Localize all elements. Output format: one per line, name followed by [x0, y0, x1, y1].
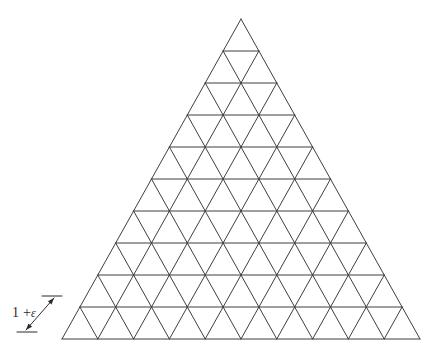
lattice-left-diagonal: [169, 179, 187, 211]
lattice-left-diagonal: [259, 275, 277, 307]
lattice-left-diagonal: [277, 243, 295, 275]
lattice-right-diagonal: [223, 243, 241, 275]
lattice-right-diagonal: [402, 307, 420, 339]
lattice-left-diagonal: [223, 211, 241, 243]
lattice-left-diagonal: [241, 51, 259, 83]
lattice-left-diagonal: [223, 275, 241, 307]
lattice-left-diagonal: [295, 275, 313, 307]
figure-root: 1 +ε: [0, 0, 438, 360]
lattice-right-diagonal: [277, 147, 295, 179]
lattice-right-diagonal: [223, 115, 241, 147]
lattice-right-diagonal: [116, 243, 134, 275]
lattice-right-diagonal: [259, 51, 277, 83]
lattice-right-diagonal: [277, 211, 295, 243]
lattice-right-diagonal: [205, 147, 223, 179]
lattice-right-diagonal: [366, 243, 384, 275]
lattice-left-diagonal: [277, 179, 295, 211]
lattice-right-diagonal: [241, 83, 259, 115]
lattice-left-diagonal: [313, 243, 331, 275]
lattice-left-diagonal: [366, 275, 384, 307]
lattice-right-diagonal: [331, 179, 349, 211]
lattice-left-diagonal: [348, 307, 366, 339]
lattice-left-diagonal: [259, 147, 277, 179]
lattice-left-diagonal: [348, 243, 366, 275]
lattice-left-diagonal: [241, 179, 259, 211]
lattice-right-diagonal: [277, 275, 295, 307]
lattice-right-diagonal: [134, 275, 152, 307]
lattice-left-diagonal: [205, 307, 223, 339]
triangular-lattice: [0, 0, 438, 360]
lattice-right-diagonal: [223, 51, 241, 83]
lattice-line-group: [62, 19, 420, 339]
lattice-right-diagonal: [223, 179, 241, 211]
lattice-left-diagonal: [98, 307, 116, 339]
lattice-left-diagonal: [241, 115, 259, 147]
lattice-right-diagonal: [205, 211, 223, 243]
lattice-right-diagonal: [241, 211, 259, 243]
lattice-left-diagonal: [384, 307, 402, 339]
lattice-left-diagonal: [152, 275, 170, 307]
lattice-right-diagonal: [313, 211, 331, 243]
lattice-left-diagonal: [223, 147, 241, 179]
lattice-right-diagonal: [295, 115, 313, 147]
lattice-right-diagonal: [241, 19, 259, 51]
lattice-left-diagonal: [187, 83, 205, 115]
lattice-right-diagonal: [80, 307, 98, 339]
lattice-left-diagonal: [80, 275, 98, 307]
lattice-left-diagonal: [205, 243, 223, 275]
lattice-left-diagonal: [241, 307, 259, 339]
lattice-left-diagonal: [187, 275, 205, 307]
lattice-left-diagonal: [277, 307, 295, 339]
lattice-left-diagonal: [169, 307, 187, 339]
lattice-right-diagonal: [152, 243, 170, 275]
lattice-left-diagonal: [134, 243, 152, 275]
lattice-left-diagonal: [295, 147, 313, 179]
lattice-left-diagonal: [223, 83, 241, 115]
lattice-right-diagonal: [152, 179, 170, 211]
lattice-left-diagonal: [62, 307, 80, 339]
lattice-right-diagonal: [98, 275, 116, 307]
lattice-left-diagonal: [205, 51, 223, 83]
lattice-left-diagonal: [277, 115, 295, 147]
lattice-left-diagonal: [259, 83, 277, 115]
lattice-left-diagonal: [313, 307, 331, 339]
lattice-left-diagonal: [98, 243, 116, 275]
lattice-left-diagonal: [116, 211, 134, 243]
lattice-right-diagonal: [331, 307, 349, 339]
lattice-left-diagonal: [134, 179, 152, 211]
lattice-right-diagonal: [187, 179, 205, 211]
lattice-right-diagonal: [277, 83, 295, 115]
lattice-right-diagonal: [116, 307, 134, 339]
lattice-left-diagonal: [152, 211, 170, 243]
lattice-right-diagonal: [348, 275, 366, 307]
lattice-right-diagonal: [187, 307, 205, 339]
lattice-right-diagonal: [241, 275, 259, 307]
lattice-right-diagonal: [295, 243, 313, 275]
lattice-right-diagonal: [366, 307, 384, 339]
lattice-left-diagonal: [187, 211, 205, 243]
lattice-right-diagonal: [313, 275, 331, 307]
lattice-left-diagonal: [169, 115, 187, 147]
lattice-right-diagonal: [295, 179, 313, 211]
lattice-right-diagonal: [331, 243, 349, 275]
lattice-right-diagonal: [205, 83, 223, 115]
lattice-left-diagonal: [205, 115, 223, 147]
lattice-left-diagonal: [223, 19, 241, 51]
epsilon-symbol: ε: [31, 306, 36, 320]
lattice-right-diagonal: [223, 307, 241, 339]
lattice-right-diagonal: [313, 147, 331, 179]
lattice-right-diagonal: [259, 307, 277, 339]
lattice-right-diagonal: [169, 211, 187, 243]
lattice-left-diagonal: [169, 243, 187, 275]
lattice-right-diagonal: [205, 275, 223, 307]
lattice-right-diagonal: [152, 307, 170, 339]
lattice-right-diagonal: [134, 211, 152, 243]
lattice-left-diagonal: [187, 147, 205, 179]
lattice-right-diagonal: [384, 275, 402, 307]
lattice-right-diagonal: [187, 115, 205, 147]
lattice-left-diagonal: [134, 307, 152, 339]
lattice-right-diagonal: [348, 211, 366, 243]
lattice-left-diagonal: [331, 211, 349, 243]
lattice-left-diagonal: [295, 211, 313, 243]
epsilon-dimension-label: 1 +ε: [12, 306, 36, 320]
